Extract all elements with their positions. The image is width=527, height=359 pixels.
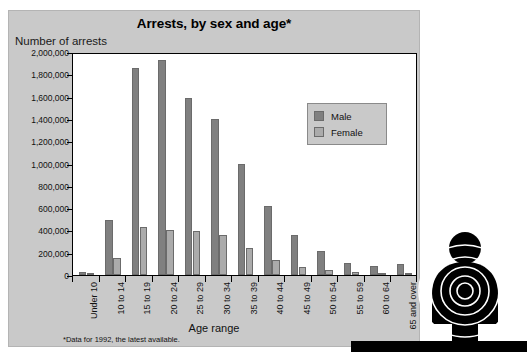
x-axis-tick-label: 10 to 14 (116, 282, 126, 315)
bar-male (105, 220, 113, 275)
bar-group (206, 54, 233, 275)
chart-title: Arrests, by sex and age* (9, 16, 419, 31)
y-axis-tick-label: 1,800,000 (13, 70, 69, 80)
x-axis-tick-label: 50 to 54 (328, 282, 338, 315)
bar-male (79, 272, 87, 275)
bar-group (285, 54, 312, 275)
y-axis-tick-label: 800,000 (13, 182, 69, 192)
bar-group (312, 54, 339, 275)
bar-group (338, 54, 365, 275)
bar-female (272, 260, 280, 275)
bar-group (259, 54, 286, 275)
bar-male (291, 235, 299, 275)
plot-area (72, 53, 417, 276)
bar-male (317, 251, 325, 275)
bar-male (264, 206, 272, 275)
bar-male (185, 98, 193, 275)
bar-female (193, 231, 201, 275)
bar-female (246, 248, 254, 275)
x-axis-tick-label: 15 to 19 (142, 282, 152, 315)
bar-group (153, 54, 180, 275)
legend-swatch-male-icon (314, 111, 324, 121)
bar-group (100, 54, 127, 275)
bar-male (238, 164, 246, 276)
y-axis-title: Number of arrests (15, 35, 107, 47)
bar-female (299, 267, 307, 275)
legend-label-male: Male (331, 111, 352, 122)
legend-swatch-female-icon (314, 127, 324, 137)
bar-group (73, 54, 100, 275)
legend-item-male: Male (314, 108, 380, 124)
bar-female (325, 270, 333, 275)
bar-male (132, 68, 140, 275)
bar-female (352, 272, 360, 275)
y-axis-tick-label: 1,000,000 (13, 160, 69, 170)
bar-female (166, 230, 174, 275)
bar-male (370, 266, 378, 275)
bar-group (179, 54, 206, 275)
x-axis-tick-label: 20 to 24 (169, 282, 179, 315)
chart-legend: Male Female (307, 103, 387, 145)
y-axis-tick-label: 2,000,000 (13, 48, 69, 58)
x-axis-title: Age range (9, 322, 419, 334)
y-axis-tick-label: 1,600,000 (13, 93, 69, 103)
x-axis-tick-label: 60 to 64 (381, 282, 391, 315)
x-axis-tick-label: 25 to 29 (195, 282, 205, 315)
footnote: *Data for 1992, the latest available. (63, 335, 180, 344)
bar-group (365, 54, 392, 275)
y-axis-tick-label: 400,000 (13, 226, 69, 236)
x-axis-tick-label: 45 to 49 (302, 282, 312, 315)
bar-male (344, 263, 352, 275)
y-axis-tick-label: 1,400,000 (13, 115, 69, 125)
bottom-rule (351, 341, 527, 352)
y-axis-tick-label: 0 (13, 271, 69, 281)
x-axis-tick-label: 55 to 59 (355, 282, 365, 315)
bar-male (158, 60, 166, 275)
y-axis-tick-label: 200,000 (13, 249, 69, 259)
x-axis-tick-label: Under 10 (89, 282, 99, 319)
y-axis-tick-label: 600,000 (13, 204, 69, 214)
x-axis-tick-label: 30 to 34 (222, 282, 232, 315)
bar-group (232, 54, 259, 275)
x-axis-tick-label: 35 to 39 (249, 282, 259, 315)
bars-container (73, 54, 416, 275)
bar-group (126, 54, 153, 275)
x-axis-tick-label: 40 to 44 (275, 282, 285, 315)
bar-female (140, 227, 148, 275)
bar-male (211, 119, 219, 275)
bar-female (219, 235, 227, 275)
chart-panel: Arrests, by sex and age* Number of arres… (8, 10, 420, 347)
y-axis-tick-container: 0200,000400,000600,000800,0001,000,0001,… (9, 53, 69, 276)
bar-female (113, 258, 121, 275)
person-target-icon (404, 228, 527, 342)
legend-label-female: Female (331, 127, 363, 138)
bar-female (378, 273, 386, 275)
legend-item-female: Female (314, 124, 380, 140)
y-axis-tick-label: 1,200,000 (13, 137, 69, 147)
bar-female (87, 273, 95, 275)
